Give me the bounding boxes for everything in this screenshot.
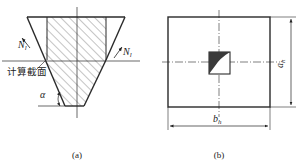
figure-a: Nl Nl 计算截面 α (a) bbox=[2, 7, 140, 160]
angle-label: α bbox=[40, 89, 46, 100]
diagram-canvas: Nl Nl 计算截面 α (a) ah bh (b) bbox=[0, 0, 306, 167]
section-label: 计算截面 bbox=[7, 66, 47, 77]
dimension-label-ah: ah bbox=[274, 59, 287, 68]
caption-b: (b) bbox=[214, 150, 225, 160]
force-arrow-right bbox=[114, 47, 122, 58]
figure-b: ah bh (b) bbox=[162, 10, 296, 160]
force-label-right: Nl bbox=[122, 46, 132, 59]
hatched-section bbox=[45, 17, 106, 106]
dimension-label-bh: bh bbox=[213, 113, 222, 126]
force-label-left: Nl bbox=[17, 39, 27, 52]
caption-a: (a) bbox=[72, 150, 82, 160]
